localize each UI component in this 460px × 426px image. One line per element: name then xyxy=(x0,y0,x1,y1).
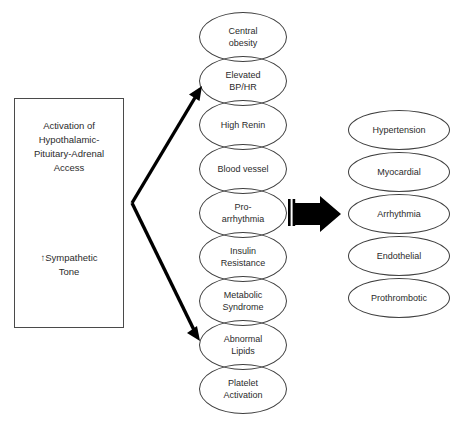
outcome-label: Hypertension xyxy=(366,124,431,136)
outcome-label: Myocardial xyxy=(371,166,427,178)
outcome-node-myocardial: Myocardial xyxy=(348,152,450,192)
arrow-pro-arrhythmia-to-arrhythmia xyxy=(288,196,341,232)
source-box-title: Activation of Hypothalamic- Pituitary-Ad… xyxy=(15,119,123,175)
mediator-label: Central obesity xyxy=(222,25,263,49)
mediator-node-blood-vessel: Blood vessel xyxy=(199,144,287,194)
outcome-label: Arrhythmia xyxy=(371,208,427,220)
source-box-subtitle: ↑Sympathetic Tone xyxy=(15,251,123,279)
arrow-to-elevated-bp-hr xyxy=(132,86,202,203)
arrow-to-abnormal-lipids xyxy=(132,203,200,341)
source-box: Activation of Hypothalamic- Pituitary-Ad… xyxy=(14,98,124,328)
mediator-label: Pro- arrhythmia xyxy=(216,201,271,225)
outcome-label: Prothrombotic xyxy=(365,292,433,304)
outcome-node-hypertension: Hypertension xyxy=(348,110,450,150)
outcome-node-endothelial: Endothelial xyxy=(348,236,450,276)
mediator-node-abnormal-lipids: Abnormal Lipids xyxy=(199,320,287,370)
mediator-node-metabolic-syndrome: Metabolic Syndrome xyxy=(199,276,287,326)
mediator-label: Elevated BP/HR xyxy=(219,69,266,93)
mediator-node-high-renin: High Renin xyxy=(199,100,287,150)
mediator-node-platelet-activation: Platelet Activation xyxy=(199,364,287,414)
outcome-node-arrhythmia: Arrhythmia xyxy=(348,194,450,234)
mediator-label: Platelet Activation xyxy=(217,377,268,401)
mediator-label: Metabolic Syndrome xyxy=(216,289,269,313)
mediator-label: Abnormal Lipids xyxy=(218,333,269,357)
outcome-label: Endothelial xyxy=(371,250,428,262)
mediator-node-elevated-bp-hr: Elevated BP/HR xyxy=(199,56,287,106)
outcome-node-prothrombotic: Prothrombotic xyxy=(348,278,450,318)
mediator-label: Insulin Resistance xyxy=(215,245,272,269)
mediator-node-insulin-resistance: Insulin Resistance xyxy=(199,232,287,282)
diagram-canvas: Activation of Hypothalamic- Pituitary-Ad… xyxy=(0,0,460,426)
mediator-node-pro-arrhythmia: Pro- arrhythmia xyxy=(199,188,287,238)
mediator-label: High Renin xyxy=(215,119,272,131)
mediator-label: Blood vessel xyxy=(211,163,274,175)
mediator-node-central-obesity: Central obesity xyxy=(199,12,287,62)
